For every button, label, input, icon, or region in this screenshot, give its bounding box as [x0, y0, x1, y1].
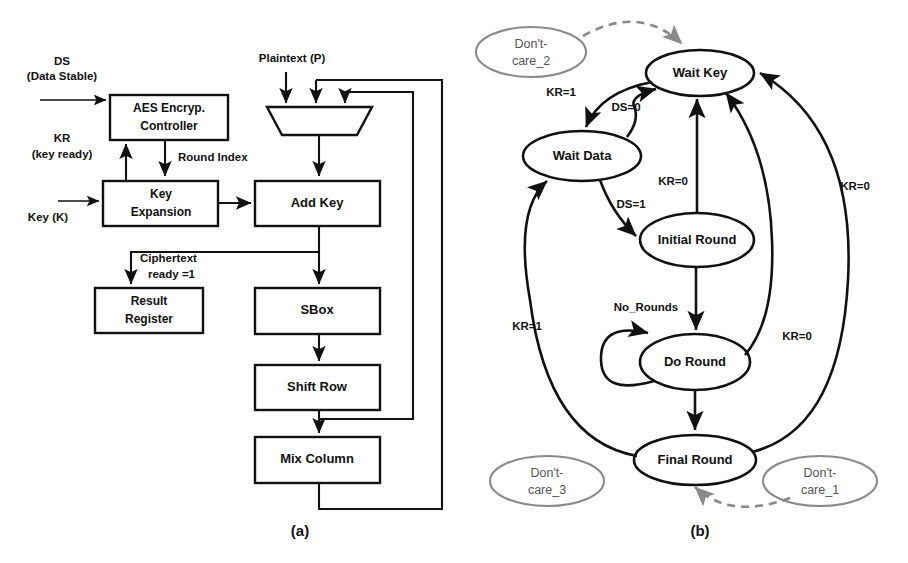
caption-b: (b) [690, 522, 709, 539]
add-key-label: Add Key [291, 195, 345, 210]
signal-label-key: Key (K) [28, 211, 68, 223]
edge-label-kr0-center: KR=0 [658, 175, 688, 187]
signal-label-kr-line2: (key ready) [32, 148, 93, 160]
edge-label-ds1: DS=1 [616, 198, 646, 210]
block-diagram-group: Plaintext (P) AES Encryp. Controller DS … [27, 52, 442, 539]
sbox-label: SBox [300, 302, 334, 317]
edge-label-ds0: DS=0 [611, 101, 640, 113]
signal-label-plaintext: Plaintext (P) [259, 52, 326, 64]
state-dont-care-1-label-line1: Don't- [804, 466, 837, 480]
figure-canvas: Plaintext (P) AES Encryp. Controller DS … [0, 0, 908, 563]
edge-waitdata-to-waitkey [627, 89, 656, 137]
edge-label-kr0-finalround: KR=0 [840, 180, 870, 192]
state-dont-care-3[interactable] [490, 456, 604, 506]
state-dont-care-3-label-line1: Don't- [531, 466, 564, 480]
mux-block[interactable] [267, 107, 372, 135]
edge-label-no-rounds: No_Rounds [614, 301, 679, 313]
edge-dontcare2-to-waitkey [583, 22, 682, 44]
state-dont-care-1-label-line2: care_1 [801, 483, 839, 497]
figure-svg: Plaintext (P) AES Encryp. Controller DS … [0, 0, 908, 563]
state-do-round-label: Do Round [664, 354, 726, 369]
edge-finalround-to-waitdata [525, 181, 637, 456]
state-dont-care-2-label-line2: care_2 [512, 54, 550, 68]
aes-controller-label-line2: Controller [140, 119, 198, 133]
mix-column-label: Mix Column [280, 451, 354, 466]
state-final-round-label: Final Round [657, 452, 732, 467]
edge-label-kr0-doround: KR=0 [782, 330, 812, 342]
state-dont-care-2[interactable] [476, 27, 586, 77]
edge-label-kr1-bottom: KR=1 [512, 320, 542, 332]
caption-a: (a) [291, 522, 309, 539]
state-initial-round-label: Initial Round [658, 232, 737, 247]
result-register-label-line1: Result [131, 294, 168, 308]
state-machine-group: Don't- care_2 Wait Key Wait Data KR=1 DS… [476, 22, 877, 539]
state-dont-care-2-label-line1: Don't- [515, 37, 548, 51]
edge-label-kr1-top: KR=1 [546, 86, 576, 98]
state-wait-data-label: Wait Data [553, 148, 613, 163]
aes-controller-label-line1: AES Encryp. [133, 101, 205, 115]
shift-row-label: Shift Row [287, 379, 348, 394]
signal-label-ds-line1: DS [54, 55, 70, 67]
signal-label-kr-line1: KR [54, 132, 71, 144]
edge-finalround-to-waitkey [752, 73, 849, 452]
state-wait-key-label: Wait Key [673, 65, 728, 80]
state-dont-care-3-label-line2: care_3 [528, 483, 566, 497]
signal-label-ciphertext-line2: ready =1 [148, 268, 196, 280]
signal-label-ciphertext-line1: Ciphertext [140, 252, 197, 264]
signal-label-ds-line2: (Data Stable) [27, 70, 97, 82]
result-register-label-line2: Register [125, 312, 173, 326]
key-expansion-label-line2: Expansion [131, 205, 192, 219]
signal-label-round-index: Round Index [178, 151, 248, 163]
key-expansion-label-line1: Key [150, 187, 172, 201]
state-dont-care-1[interactable] [763, 456, 877, 506]
